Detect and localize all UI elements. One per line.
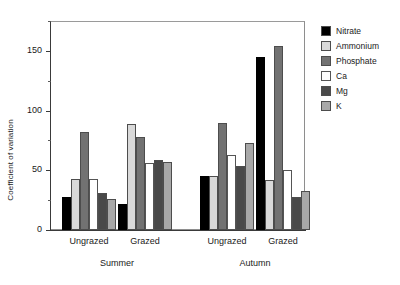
bar xyxy=(292,197,301,230)
legend-swatch-icon xyxy=(321,41,331,51)
bar xyxy=(136,137,145,230)
x-group-label: Grazed xyxy=(253,236,313,246)
bar xyxy=(236,166,245,230)
legend-item: Nitrate xyxy=(321,23,379,38)
bar xyxy=(256,57,265,230)
legend-item: Mg xyxy=(321,83,379,98)
legend-label: Ammonium xyxy=(336,41,379,51)
bar xyxy=(71,179,80,230)
bar xyxy=(107,199,116,230)
legend: NitrateAmmoniumPhosphateCaMgK xyxy=(321,23,379,113)
bar xyxy=(265,180,274,230)
legend-swatch-icon xyxy=(321,101,331,111)
bar xyxy=(62,197,71,230)
x-season-label: Autumn xyxy=(215,258,295,268)
bar xyxy=(98,193,107,230)
bar xyxy=(154,160,163,230)
bar-chart-figure: Coefficient of variation 050100150 Ungra… xyxy=(0,0,400,285)
bar xyxy=(127,124,136,230)
legend-label: Ca xyxy=(336,71,347,81)
legend-item: Phosphate xyxy=(321,53,379,68)
bar xyxy=(301,191,310,230)
legend-label: Nitrate xyxy=(336,26,361,36)
legend-label: Mg xyxy=(336,86,348,96)
x-season-label: Summer xyxy=(77,258,157,268)
bar xyxy=(209,176,218,230)
bar xyxy=(89,179,98,230)
legend-label: K xyxy=(336,101,342,111)
bar xyxy=(163,162,172,230)
bar xyxy=(218,123,227,230)
x-group-label: Grazed xyxy=(115,236,175,246)
bar xyxy=(118,204,127,230)
bar xyxy=(227,155,236,230)
x-group-label: Ungrazed xyxy=(197,236,257,246)
legend-item: Ammonium xyxy=(321,38,379,53)
x-group-label: Ungrazed xyxy=(59,236,119,246)
legend-item: Ca xyxy=(321,68,379,83)
bar xyxy=(80,132,89,230)
bar xyxy=(200,176,209,230)
legend-swatch-icon xyxy=(321,86,331,96)
legend-item: K xyxy=(321,98,379,113)
bar xyxy=(274,46,283,230)
bar xyxy=(145,163,154,230)
legend-label: Phosphate xyxy=(336,56,377,66)
bar xyxy=(245,143,254,230)
legend-swatch-icon xyxy=(321,26,331,36)
legend-swatch-icon xyxy=(321,56,331,66)
bar xyxy=(283,170,292,230)
legend-swatch-icon xyxy=(321,71,331,81)
